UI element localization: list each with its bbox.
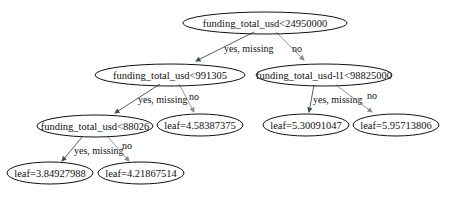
edge-n3-n7: yes, missing [62,136,123,161]
edge-label: no [189,91,199,102]
node-label: funding_total_usd<24950000 [203,18,327,29]
decision-tree-diagram: yes, missing no yes, missing no yes, mis… [0,0,449,198]
edge-label: no [122,140,132,151]
split-node-root: funding_total_usd<24950000 [183,12,347,34]
split-node-n2: funding_total_usd-l1<98825000 [256,64,392,86]
edge-label: no [367,90,377,101]
edge-label: no [292,43,302,54]
node-label: funding_total_usd<88026 [41,121,150,132]
edge-n0-n2: no [276,32,304,60]
node-label: funding_total_usd-l1<98825000 [256,70,392,81]
edge-label: yes, missing [138,94,187,105]
node-label: leaf=5.30091047 [270,120,342,131]
edge-n1-n3: yes, missing [115,84,187,113]
node-label: leaf=5.95713806 [360,120,432,131]
edge-n0-n1: yes, missing [196,32,273,61]
leaf-node-n8: leaf=4.21867514 [98,162,184,184]
split-node-n3: funding_total_usd<88026 [37,115,153,137]
split-node-n1: funding_total_usd<991305 [95,64,245,86]
leaf-node-n4: leaf=4.58387375 [157,114,243,136]
node-label: leaf=3.84927988 [14,168,86,179]
node-label: leaf=4.21867514 [105,168,177,179]
leaf-node-n7: leaf=3.84927988 [7,162,93,184]
edge-label: yes, missing [224,43,273,54]
leaf-node-n6: leaf=5.95713806 [353,114,439,136]
leaf-node-n5: leaf=5.30091047 [263,114,349,136]
node-label: leaf=4.58387375 [164,120,236,131]
node-label: funding_total_usd<991305 [113,70,227,81]
